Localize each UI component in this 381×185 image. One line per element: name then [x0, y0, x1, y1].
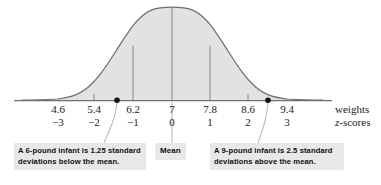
tick-label-zscore-3: 0	[169, 116, 175, 128]
tick-label-zscore-2: −1	[127, 116, 139, 128]
normal-curve-figure: 4.6 5.4 6.2 7 7.8 8.6 9.4 −3 −2 −1 0 1 2…	[0, 0, 381, 185]
tick-label-zscore-4: 1	[207, 116, 213, 128]
axis-label-weights: weights	[335, 103, 369, 115]
tick-label-zscore-6: 3	[284, 116, 290, 128]
tick-label-weight-0: 4.6	[51, 103, 65, 115]
axis-label-zscores: z-scores	[335, 116, 370, 128]
marker-dot-nine-pound-infant	[265, 97, 271, 103]
tick-label-weight-5: 8.6	[241, 103, 255, 115]
leader-line-left-callout	[104, 102, 117, 143]
callout-six-pound-infant: A 6-pound infant is 1.25 standard deviat…	[14, 143, 146, 170]
tick-label-zscore-0: −3	[52, 116, 64, 128]
tick-label-weight-1: 5.4	[87, 103, 101, 115]
tick-label-weight-3: 7	[169, 103, 175, 115]
tick-label-weight-4: 7.8	[203, 103, 217, 115]
shaded-area-under-curve	[58, 7, 287, 100]
callout-mean: Mean	[155, 143, 186, 160]
leader-line-right-callout	[258, 102, 268, 143]
axis-label-zscores-suffix: -scores	[339, 116, 370, 128]
tick-label-zscore-1: −2	[88, 116, 100, 128]
callout-nine-pound-infant: A 9-pound infant is 2.5 standard deviati…	[210, 143, 344, 170]
marker-dot-six-pound-infant	[114, 97, 120, 103]
tick-label-weight-6: 9.4	[280, 103, 294, 115]
tick-label-weight-2: 6.2	[126, 103, 140, 115]
tick-label-zscore-5: 2	[245, 116, 251, 128]
